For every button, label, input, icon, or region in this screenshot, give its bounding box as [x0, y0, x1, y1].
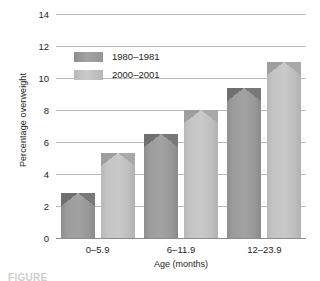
- legend-swatch-1: [74, 70, 103, 80]
- legend-entry-0: 1980–1981: [74, 49, 160, 64]
- y-tick-label-10: 10: [38, 73, 49, 84]
- bars-layer: [56, 14, 306, 238]
- gridline-0: 0: [56, 238, 306, 239]
- bar-1-1: [184, 110, 218, 238]
- bar-body: [227, 88, 261, 238]
- bar-top-notch: [61, 193, 95, 206]
- plot-area: 02468101214: [56, 14, 306, 238]
- bar-top-notch: [101, 153, 135, 166]
- y-tick-label-2: 2: [44, 201, 49, 212]
- y-tick-label-12: 12: [38, 41, 49, 52]
- chart-legend: 1980–19812000–2001: [74, 49, 160, 85]
- bar-body: [144, 134, 178, 238]
- legend-entry-1: 2000–2001: [74, 67, 160, 82]
- bar-body: [184, 110, 218, 238]
- bar-2-1: [267, 62, 301, 238]
- x-tick-label-0: 0–5.9: [86, 244, 110, 255]
- legend-swatch-0: [74, 52, 103, 62]
- bar-top-notch: [144, 134, 178, 147]
- y-tick-label-14: 14: [38, 9, 49, 20]
- bar-1-0: [144, 134, 178, 238]
- legend-label-0: 1980–1981: [112, 51, 160, 62]
- y-axis-title: Percentage overweight: [18, 50, 28, 190]
- bar-2-0: [227, 88, 261, 238]
- y-tick-label-4: 4: [44, 169, 49, 180]
- y-tick-label-0: 0: [44, 233, 49, 244]
- bar-body: [267, 62, 301, 238]
- legend-label-1: 2000–2001: [112, 69, 160, 80]
- bar-chart-figure: Percentage overweight 02468101214 1980–1…: [0, 0, 320, 281]
- bar-top-notch: [227, 88, 261, 101]
- y-tick-label-6: 6: [44, 137, 49, 148]
- x-tick-label-2: 12–23.9: [247, 244, 281, 255]
- bar-top-notch: [267, 62, 301, 75]
- bar-top-notch: [184, 110, 218, 123]
- x-tick-label-1: 6–11.9: [167, 244, 195, 255]
- bar-0-0: [61, 193, 95, 238]
- bar-0-1: [101, 153, 135, 238]
- x-axis-title: Age (months): [56, 259, 306, 269]
- y-tick-label-8: 8: [44, 105, 49, 116]
- figure-caption: FIGURE: [8, 272, 48, 281]
